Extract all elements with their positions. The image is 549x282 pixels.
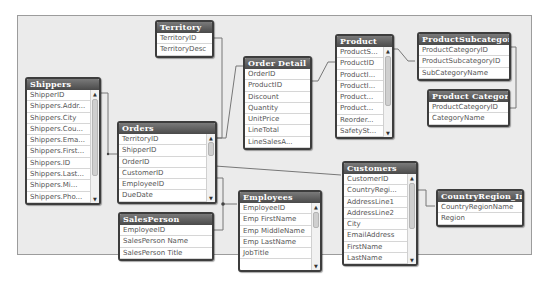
scrollbar[interactable]: ▲ ▼ [311,203,320,270]
table-orders[interactable]: Orders TerritoryID ShipperID OrderID Cus… [117,121,217,204]
field-row[interactable]: Quantity [245,103,310,114]
field-row[interactable]: Reorder... [337,115,383,126]
field-row[interactable]: Shippers.Mi... [27,180,90,191]
field-row[interactable]: SafetySt... [337,126,383,137]
field-row[interactable]: CountryRegi... [344,185,407,196]
field-row[interactable]: City [344,219,407,230]
field-row[interactable]: Shippers.Last... [27,169,90,180]
table-customers[interactable]: Customers CustomerID CountryRegi... Addr… [342,161,418,266]
table-order-detail[interactable]: Order Detail OrderID ProductID Discount … [243,56,312,150]
field-row[interactable]: TerritoryID [157,33,212,44]
table-title[interactable]: Employees [240,192,320,203]
table-territory[interactable]: Territory TerritoryID TerritoryDesc [155,20,214,58]
field-row[interactable]: CustomerID [119,168,206,179]
field-row[interactable]: EmailAddress [344,230,407,241]
field-row[interactable]: TerritoryID [119,134,206,145]
field-row[interactable]: ShipperID [27,90,90,101]
scrollbar[interactable]: ▲ ▼ [206,134,215,202]
field-row[interactable]: AddressLine2 [344,208,407,219]
table-country-region-inline[interactable]: CountryRegion_Inline CountryRegionName R… [436,189,524,227]
scroll-up-icon[interactable]: ▲ [207,135,215,141]
table-title[interactable]: Product Category [429,91,508,102]
field-row[interactable]: ProductS... [337,47,383,58]
scroll-down-icon[interactable]: ▼ [408,257,416,263]
field-row[interactable]: Shippers.Pho... [27,192,90,203]
scroll-down-icon[interactable]: ▼ [384,130,392,136]
table-title[interactable]: Customers [344,163,416,174]
scroll-up-icon[interactable]: ▲ [384,48,392,54]
field-row[interactable]: ProductSubcategoryID [419,56,509,67]
field-row[interactable]: ShipperID [119,145,206,156]
field-row[interactable]: ProductCategoryID [429,102,508,113]
field-row[interactable]: Shippers.Cou... [27,124,90,135]
field-row[interactable]: SalesPerson Title [120,248,212,259]
scrollbar-thumb[interactable] [313,212,319,228]
field-row[interactable]: Shippers.Addr... [27,101,90,112]
field-row[interactable]: ProductCategoryID [419,45,509,56]
field-row[interactable]: FirstName [344,242,407,253]
field-row[interactable]: LastName [344,253,407,264]
field-row[interactable]: LineSalesA... [245,137,310,148]
table-title[interactable]: Shippers [27,79,99,90]
field-row[interactable]: Emp LastName [240,237,311,248]
scrollbar[interactable]: ▲ ▼ [90,90,99,203]
scrollbar[interactable]: ▲ ▼ [407,174,416,264]
scroll-up-icon[interactable]: ▲ [408,175,416,181]
field-row[interactable]: ProductID [245,80,310,91]
field-row[interactable]: Product... [337,103,383,114]
table-title[interactable]: CountryRegion_Inline [438,191,522,202]
scroll-down-icon[interactable]: ▼ [207,195,215,201]
field-row[interactable]: TerritoryDesc [157,44,212,55]
scrollbar-thumb[interactable] [409,183,415,229]
field-row[interactable]: DueDate [119,190,206,201]
table-product-subcategory[interactable]: ProductSubcategory ProductCategoryID Pro… [417,32,511,81]
field-row[interactable]: Discount [245,92,310,103]
field-row[interactable]: Shippers.ID [27,158,90,169]
field-row[interactable]: EmployeeID [119,179,206,190]
field-row[interactable]: CustomerID [344,174,407,185]
scrollbar-thumb[interactable] [92,99,98,176]
field-row[interactable]: Shippers.City [27,113,90,124]
table-title[interactable]: Orders [119,123,215,134]
field-row[interactable]: ProductI... [337,70,383,81]
field-row[interactable]: OrderID [245,69,310,80]
scroll-down-icon[interactable]: ▼ [91,196,99,202]
field-row[interactable]: Shippers.First... [27,146,90,157]
table-employees[interactable]: Employees EmployeeID Emp FirstName Emp M… [238,190,322,272]
field-row[interactable]: JobTitle [240,248,311,259]
scrollbar[interactable]: ▲ ▼ [383,47,392,137]
table-salesperson[interactable]: SalesPerson EmployeeID SalesPerson Name … [118,212,214,261]
table-title[interactable]: Territory [157,22,212,33]
field-row[interactable]: Shippers.Ema... [27,135,90,146]
table-title[interactable]: Product [337,36,392,47]
field-row[interactable]: SubCategoryName [419,68,509,79]
scrollbar-thumb[interactable] [208,142,214,156]
field-row[interactable]: Emp FirstName [240,214,311,225]
scroll-up-icon[interactable]: ▲ [312,204,320,210]
scrollbar-thumb[interactable] [385,56,391,106]
empty-row [240,259,311,269]
field-row[interactable]: SalesPerson Name [120,236,212,247]
field-row[interactable]: Region [438,213,522,224]
scroll-down-icon[interactable]: ▼ [312,263,320,269]
field-row[interactable]: EmployeeID [120,225,212,236]
field-row[interactable]: EmployeeID [240,203,311,214]
field-row[interactable]: Product... [337,92,383,103]
table-title[interactable]: SalesPerson [120,214,212,225]
field-row[interactable]: CategoryName [429,113,508,124]
scroll-up-icon[interactable]: ▲ [91,91,99,97]
field-row[interactable]: UnitPrice [245,114,310,125]
field-row[interactable]: CountryRegionName [438,202,522,213]
table-title[interactable]: ProductSubcategory [419,34,509,45]
field-row[interactable]: Emp MiddleName [240,226,311,237]
field-row[interactable]: AddressLine1 [344,197,407,208]
field-row[interactable]: OrderID [119,157,206,168]
field-row[interactable]: ProductI... [337,81,383,92]
table-product[interactable]: Product ProductS... ProductID ProductI..… [335,34,394,139]
field-row[interactable]: ProductID [337,58,383,69]
table-shippers[interactable]: Shippers ShipperID Shippers.Addr... Ship… [25,77,101,205]
table-product-category[interactable]: Product Category ProductCategoryID Categ… [427,89,510,127]
table-title[interactable]: Order Detail [245,58,310,69]
field-row[interactable]: LineTotal [245,125,310,136]
